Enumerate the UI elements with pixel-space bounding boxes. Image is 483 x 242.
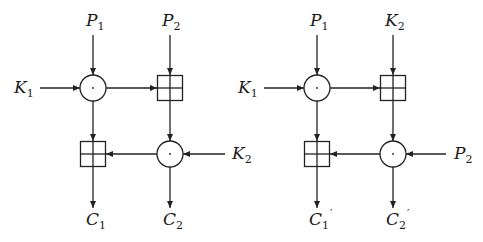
multiply-op-2 bbox=[380, 141, 406, 167]
label-left-input: K1 bbox=[237, 77, 258, 100]
label-out-2: C2 bbox=[163, 209, 183, 232]
multiply-dot-icon bbox=[392, 153, 394, 155]
multiply-dot-icon bbox=[316, 87, 318, 89]
label-left-input: K1 bbox=[13, 77, 34, 100]
label-right-input: P2 bbox=[453, 143, 472, 166]
add-op-1 bbox=[381, 76, 406, 101]
multiply-op-2 bbox=[157, 141, 183, 167]
add-op-1 bbox=[158, 76, 183, 101]
multiply-dot-icon bbox=[169, 153, 171, 155]
label-top-2: K2 bbox=[384, 10, 405, 33]
multiply-op-1 bbox=[80, 75, 106, 101]
label-top-2: P2 bbox=[161, 10, 180, 33]
label-top-1: P1 bbox=[85, 10, 104, 33]
multiply-dot-icon bbox=[92, 87, 94, 89]
add-op-2 bbox=[81, 142, 106, 167]
label-out-2: C2′ bbox=[386, 207, 410, 232]
label-top-1: P1 bbox=[309, 10, 328, 33]
left-diagram: P1 P2 K1 K2 bbox=[13, 10, 252, 232]
label-out-1: C1′ bbox=[309, 207, 333, 232]
idea-mixing-diagrams: P1 P2 K1 K2 bbox=[0, 0, 483, 242]
right-diagram: P1 K2 K1 P2 C1′ bbox=[237, 10, 472, 232]
label-out-1: C1 bbox=[86, 209, 106, 232]
label-right-input: K2 bbox=[231, 143, 252, 166]
multiply-op-1 bbox=[304, 75, 330, 101]
add-op-2 bbox=[305, 142, 330, 167]
